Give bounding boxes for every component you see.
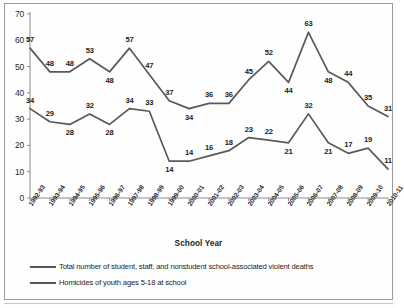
- y-tick-label: 40: [6, 88, 24, 98]
- y-tick-label: 0: [6, 193, 24, 203]
- data-point-label: 34: [125, 96, 133, 105]
- y-tick-label: 20: [6, 140, 24, 150]
- data-point-label: 21: [324, 147, 332, 156]
- legend-label: Homicides of youth ages 5-18 at school: [59, 278, 186, 287]
- data-point-label: 47: [145, 61, 153, 70]
- data-point-label: 52: [265, 48, 273, 57]
- data-point-label: 63: [304, 19, 312, 28]
- x-axis-title: School Year: [0, 239, 397, 248]
- y-tick-label: 10: [6, 167, 24, 177]
- data-point-label: 48: [106, 76, 114, 85]
- data-point-label: 17: [344, 140, 352, 149]
- bottom-divider: [4, 303, 393, 304]
- data-point-label: 32: [86, 101, 94, 110]
- data-point-label: 14: [185, 148, 193, 157]
- data-point-label: 57: [26, 35, 34, 44]
- data-point-label: 18: [225, 138, 233, 147]
- data-point-label: 34: [185, 113, 193, 122]
- data-point-label: 29: [46, 109, 54, 118]
- data-point-label: 16: [205, 143, 213, 152]
- data-point-label: 45: [245, 67, 253, 76]
- data-point-label: 33: [145, 98, 153, 107]
- y-tick-label: 30: [6, 114, 24, 124]
- data-point-label: 34: [26, 96, 34, 105]
- data-point-label: 32: [304, 101, 312, 110]
- data-point-label: 21: [285, 147, 293, 156]
- data-point-label: 35: [364, 93, 372, 102]
- legend-line-swatch: [30, 266, 56, 268]
- data-point-label: 57: [125, 35, 133, 44]
- data-point-label: 23: [245, 125, 253, 134]
- data-point-label: 44: [344, 69, 352, 78]
- data-point-label: 31: [384, 104, 392, 113]
- data-point-label: 28: [106, 128, 114, 137]
- data-point-label: 48: [324, 76, 332, 85]
- data-point-label: 53: [86, 46, 94, 55]
- data-point-label: 11: [384, 156, 392, 165]
- data-point-label: 36: [205, 90, 213, 99]
- data-point-label: 37: [165, 88, 173, 97]
- legend-item[interactable]: Homicides of youth ages 5-18 at school: [30, 278, 186, 287]
- data-point-label: 48: [46, 59, 54, 68]
- data-point-label: 44: [285, 86, 293, 95]
- y-tick-label: 70: [6, 9, 24, 19]
- data-point-label: 28: [66, 128, 74, 137]
- legend-line-swatch: [30, 282, 56, 284]
- data-point-label: 14: [165, 165, 173, 174]
- data-point-label: 36: [225, 90, 233, 99]
- y-tick-label: 50: [6, 62, 24, 72]
- axes: [27, 12, 388, 201]
- data-point-label: 19: [364, 135, 372, 144]
- legend-item[interactable]: Total number of student, staff, and nons…: [30, 262, 313, 271]
- data-point-label: 48: [66, 59, 74, 68]
- y-tick-label: 60: [6, 35, 24, 45]
- legend-label: Total number of student, staff, and nons…: [59, 262, 313, 271]
- data-point-label: 22: [265, 127, 273, 136]
